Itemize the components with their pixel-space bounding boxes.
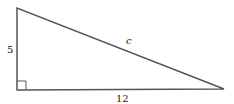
horizontal-leg-label: 12 bbox=[116, 93, 129, 104]
right-angle-marker bbox=[17, 81, 26, 90]
triangle-diagram: 5 c 12 bbox=[0, 0, 234, 104]
triangle-shape bbox=[17, 8, 224, 90]
vertical-leg-label: 5 bbox=[7, 44, 13, 55]
hypotenuse-label: c bbox=[126, 35, 132, 46]
